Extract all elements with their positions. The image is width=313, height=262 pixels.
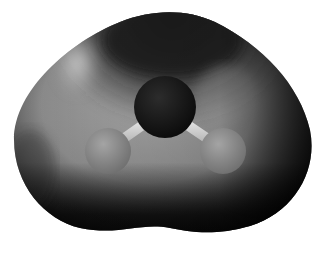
electrostatic-potential-figure (0, 0, 313, 262)
oxygen-atom (134, 76, 196, 138)
hydrogen-atom-right (200, 128, 246, 174)
hydrogen-atom-left (85, 128, 131, 174)
molecule-illustration (0, 0, 313, 262)
